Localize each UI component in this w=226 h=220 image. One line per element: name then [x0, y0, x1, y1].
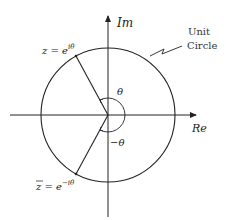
- point-zbar-label: z = e: [35, 181, 62, 192]
- imaginary-axis-label: Im: [116, 16, 133, 30]
- point-z-label: z = e: [41, 45, 68, 56]
- point-z: [75, 55, 78, 58]
- point-zbar-exponent: −iθ: [62, 179, 75, 187]
- point-zbar: [75, 173, 78, 176]
- angle-theta-label: θ: [117, 86, 123, 97]
- unit-label: Unit: [188, 26, 210, 37]
- radius-zbar: [76, 115, 108, 174]
- radius-z: [76, 56, 108, 115]
- real-axis-label: Re: [191, 122, 207, 135]
- circle-label-pointer: [150, 46, 182, 56]
- point-z-exponent: iθ: [68, 43, 75, 51]
- circle-label: Circle: [187, 40, 217, 51]
- unit-circle-diagram: Im Re Unit Circle z = e iθ z = e −iθ θ −…: [0, 0, 226, 220]
- angle-neg-theta-label: −θ: [110, 137, 124, 148]
